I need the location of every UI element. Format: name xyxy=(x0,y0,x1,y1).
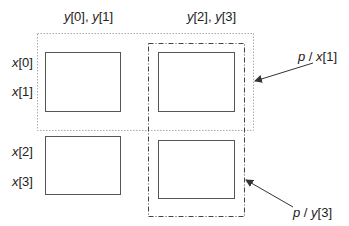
callout-p-over-x1: p / x[1] xyxy=(298,50,337,63)
block-x01-y23 xyxy=(159,53,235,112)
row-label-x2: x[2] xyxy=(12,145,33,158)
arrow-to-column-group xyxy=(246,180,293,207)
diagram-canvas xyxy=(0,0,349,226)
block-x23-y23 xyxy=(159,141,235,199)
row-label-x1: x[1] xyxy=(12,85,33,98)
block-x01-y01 xyxy=(46,53,121,112)
row-label-x0: x[0] xyxy=(12,56,33,69)
row-label-x3: x[3] xyxy=(12,175,33,188)
block-x23-y01 xyxy=(46,137,121,195)
column-label-y0-y1: y[0], y[1] xyxy=(64,10,113,23)
column-label-y2-y3: y[2], y[3] xyxy=(187,10,236,23)
callout-p-over-y3: p / y[3] xyxy=(293,206,332,219)
arrow-to-row-group xyxy=(255,63,313,81)
